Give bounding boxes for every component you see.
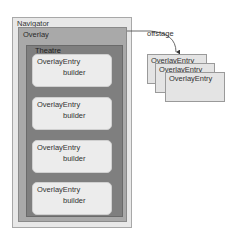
offstage-overlay-entry: OverlayEntry — [165, 72, 225, 102]
entry-title: OverlayEntry — [169, 74, 212, 83]
offstage-arrow — [0, 0, 234, 238]
offstage-label: offstage — [147, 30, 174, 38]
